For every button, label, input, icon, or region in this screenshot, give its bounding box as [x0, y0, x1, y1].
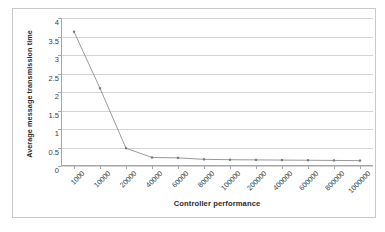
x-axis-title: Controller performance: [61, 199, 373, 208]
series-markers: [73, 31, 361, 162]
plot-area: [61, 18, 373, 166]
data-point-marker: [151, 156, 153, 158]
data-point-marker: [99, 87, 101, 89]
y-axis-tick-label: 3: [35, 56, 59, 64]
data-point-marker: [333, 159, 335, 161]
data-point-marker: [307, 159, 309, 161]
data-point-marker: [203, 158, 205, 160]
y-axis-tick-label: 1.5: [35, 112, 59, 120]
data-point-marker: [229, 159, 231, 161]
y-axis-tick-label: 0.5: [35, 149, 59, 157]
data-point-marker: [255, 159, 257, 161]
y-axis-tick-labels: 43.532.521.510.50: [35, 14, 59, 166]
data-point-marker: [125, 147, 127, 149]
y-axis-tick-label: 2.5: [35, 75, 59, 83]
y-axis-tick-label: 0: [35, 167, 59, 175]
data-point-marker: [177, 157, 179, 159]
data-series-line: [61, 18, 373, 166]
chart-figure: Average message transmission time 43.532…: [12, 8, 376, 218]
y-axis-tick-label: 1: [35, 130, 59, 138]
y-axis-tick-label: 4: [35, 19, 59, 27]
y-axis-tick-label: 3.5: [35, 38, 59, 46]
data-point-marker: [359, 160, 361, 162]
y-axis-tick-label: 2: [35, 93, 59, 101]
data-point-marker: [73, 31, 75, 33]
data-point-marker: [281, 159, 283, 161]
series-polyline: [74, 32, 360, 161]
